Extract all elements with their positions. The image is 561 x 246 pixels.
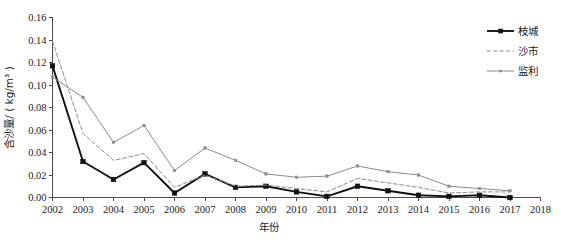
- y-axis-title-group: 含沙量/ ( kg/m³ ): [3, 66, 15, 148]
- data-point-监利: [51, 76, 54, 79]
- data-point-监利: [265, 173, 268, 176]
- data-point-枝城: [416, 193, 421, 198]
- data-point-监利: [478, 187, 481, 190]
- data-point-监利: [204, 147, 207, 150]
- legend-swatch-marker-枝城: [498, 29, 503, 34]
- x-tick-label: 2006: [164, 204, 185, 215]
- chart-canvas: 0.000.020.040.060.080.100.120.140.162002…: [0, 0, 561, 246]
- data-point-监利: [326, 175, 329, 178]
- data-point-枝城: [142, 160, 147, 165]
- data-point-枝城: [81, 159, 86, 164]
- y-tick-label: 0.16: [28, 12, 46, 23]
- data-point-枝城: [386, 188, 391, 193]
- data-point-枝城: [50, 64, 55, 69]
- x-tick-label: 2005: [134, 204, 155, 215]
- data-point-枝城: [447, 194, 452, 199]
- data-point-监利: [82, 96, 85, 99]
- y-tick-label: 0.04: [28, 147, 47, 158]
- y-tick-label: 0.10: [28, 80, 46, 91]
- data-point-监利: [112, 141, 115, 144]
- x-tick-label: 2011: [317, 204, 338, 215]
- y-axis-title: 含沙量/ ( kg/m³ ): [3, 66, 15, 148]
- chart-figure: 0.000.020.040.060.080.100.120.140.162002…: [0, 0, 561, 246]
- data-point-监利: [387, 170, 390, 173]
- legend-swatch-marker-监利: [499, 70, 502, 73]
- x-tick-label: 2004: [103, 204, 125, 215]
- data-point-监利: [173, 169, 176, 172]
- data-point-监利: [234, 159, 237, 162]
- data-point-监利: [143, 124, 146, 127]
- x-tick-label: 2012: [347, 204, 368, 215]
- data-point-监利: [356, 165, 359, 168]
- data-point-枝城: [111, 177, 116, 182]
- legend-label-枝城: 枝城: [518, 25, 539, 37]
- y-tick-label: 0.00: [28, 192, 46, 203]
- x-tick-label: 2016: [469, 204, 490, 215]
- y-tick-label: 0.14: [28, 35, 47, 46]
- data-point-枝城: [477, 193, 482, 198]
- legend-label-监利: 监利: [518, 65, 538, 77]
- data-point-枝城: [172, 191, 177, 196]
- y-tick-label: 0.12: [28, 57, 46, 68]
- x-tick-label: 2014: [408, 204, 430, 215]
- series-line-监利: [53, 77, 511, 191]
- series-line-沙市: [53, 41, 511, 193]
- data-point-枝城: [355, 184, 360, 189]
- x-tick-label: 2002: [42, 204, 63, 215]
- x-tick-label: 2008: [225, 204, 246, 215]
- chart-axes: [53, 18, 541, 198]
- data-point-监利: [295, 176, 298, 179]
- data-point-监利: [417, 174, 420, 177]
- x-tick-label: 2003: [73, 204, 94, 215]
- x-tick-label: 2009: [256, 204, 277, 215]
- x-tick-label: 2017: [500, 204, 521, 215]
- data-point-枝城: [325, 194, 330, 199]
- x-tick-label: 2015: [439, 204, 460, 215]
- x-tick-label: 2010: [286, 204, 307, 215]
- series-line-枝城: [53, 66, 511, 198]
- y-tick-label: 0.06: [28, 125, 46, 136]
- legend-label-沙市: 沙市: [518, 45, 538, 57]
- x-tick-label: 2018: [530, 204, 551, 215]
- y-tick-label: 0.02: [28, 170, 46, 181]
- data-point-监利: [509, 189, 512, 192]
- data-point-监利: [448, 185, 451, 188]
- data-point-枝城: [294, 190, 299, 195]
- y-tick-label: 0.08: [28, 102, 46, 113]
- data-point-枝城: [508, 195, 513, 200]
- x-tick-label: 2013: [378, 204, 399, 215]
- x-tick-label: 2007: [195, 204, 216, 215]
- x-axis-title: 年份: [259, 221, 280, 233]
